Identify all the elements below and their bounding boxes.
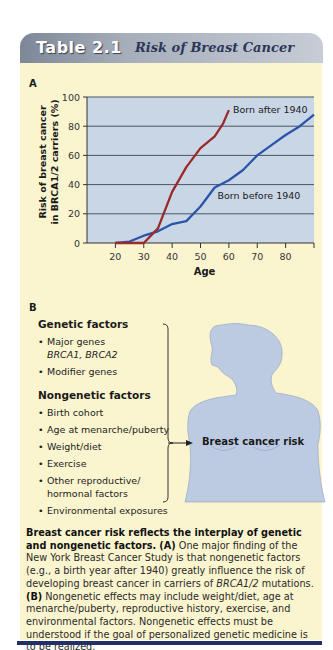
series-label-born-before-1940: Born before 1940 bbox=[218, 190, 301, 201]
x-tick-label: 20 bbox=[109, 251, 121, 262]
y-tick-label: 20 bbox=[68, 208, 80, 219]
y-axis-label-line1: Risk of breast cancer bbox=[37, 105, 48, 219]
factors-diagram bbox=[0, 295, 333, 525]
y-tick-label: 60 bbox=[68, 150, 80, 161]
y-tick-label: 0 bbox=[74, 238, 80, 249]
y-tick-label: 100 bbox=[62, 92, 80, 103]
series-label-born-after-1940: Born after 1940 bbox=[233, 104, 308, 115]
x-tick-label: 40 bbox=[166, 251, 178, 262]
y-tick-label: 40 bbox=[68, 179, 80, 190]
outcome-label: Breast cancer risk bbox=[202, 436, 304, 447]
y-axis-label-line2: in BRCA1/2 carriers (%) bbox=[49, 99, 60, 224]
caption-a-marker: (A) bbox=[159, 540, 175, 551]
curly-brace bbox=[163, 324, 173, 502]
woman-silhouette-icon bbox=[185, 324, 325, 503]
y-tick-label: 80 bbox=[68, 121, 80, 132]
x-axis-label: Age bbox=[194, 266, 216, 277]
plot-area bbox=[87, 97, 314, 243]
figure-caption: Breast cancer risk reflects the interpla… bbox=[26, 527, 316, 650]
x-tick-label: 30 bbox=[138, 251, 150, 262]
x-tick-label: 70 bbox=[251, 251, 263, 262]
bottom-rule bbox=[17, 641, 322, 645]
caption-gene: BRCA1/2 bbox=[216, 578, 258, 589]
caption-b-marker: (B) bbox=[26, 591, 42, 602]
risk-chart: 02040608010020304050607080 Age Risk of b… bbox=[0, 0, 333, 300]
x-tick-label: 80 bbox=[280, 251, 292, 262]
x-tick-label: 50 bbox=[194, 251, 206, 262]
x-tick-label: 60 bbox=[223, 251, 235, 262]
